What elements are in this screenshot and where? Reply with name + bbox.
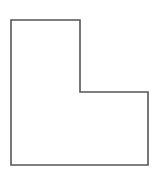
diagram-canvas [0,0,161,179]
l-shape-outline [11,20,148,165]
l-shape-figure [0,0,161,179]
